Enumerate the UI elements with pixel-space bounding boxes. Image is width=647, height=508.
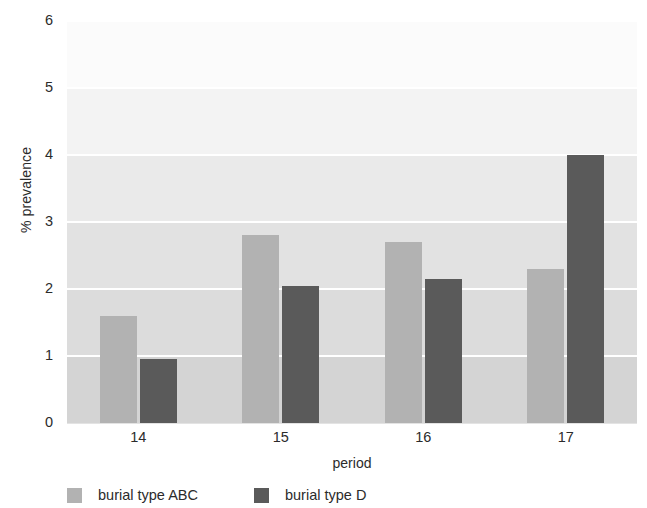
bar-chart-figure: % prevalence 0123456 14151617 period bur…	[0, 0, 647, 508]
legend-entry[interactable]: burial type ABC	[67, 487, 198, 503]
background-band-3-4	[67, 155, 637, 222]
legend-swatch-icon	[254, 488, 269, 503]
x-tick-label: 15	[241, 429, 321, 445]
y-tick-label: 2	[13, 281, 53, 296]
x-tick-label: 17	[526, 429, 606, 445]
bar	[242, 235, 279, 423]
x-axis-line	[67, 423, 637, 424]
y-tick-label: 5	[13, 80, 53, 95]
legend-swatch-icon	[67, 488, 82, 503]
bar	[567, 155, 604, 423]
gridline	[67, 87, 637, 89]
gridline	[67, 221, 637, 223]
legend-label: burial type ABC	[98, 487, 198, 503]
y-tick-label: 1	[13, 348, 53, 363]
bar	[140, 359, 177, 423]
plot-area	[67, 21, 637, 423]
y-axis-tick-labels: 0123456	[0, 0, 64, 440]
background-band-4-5	[67, 88, 637, 155]
x-tick-label: 16	[383, 429, 463, 445]
x-axis-title: period	[67, 455, 637, 471]
bar	[100, 316, 137, 423]
bar	[385, 242, 422, 423]
gridline	[67, 21, 637, 22]
x-tick-label: 14	[98, 429, 178, 445]
legend-entry[interactable]: burial type D	[254, 487, 366, 503]
chart-legend: burial type ABCburial type D	[67, 485, 366, 505]
legend-label: burial type D	[285, 487, 366, 503]
gridline	[67, 154, 637, 156]
y-tick-label: 4	[13, 147, 53, 162]
x-axis-tick-labels: 14151617	[67, 429, 637, 451]
y-tick-label: 3	[13, 214, 53, 229]
bar	[425, 279, 462, 423]
y-tick-label: 0	[13, 415, 53, 430]
background-band-5-6	[67, 21, 637, 88]
y-tick-label: 6	[13, 13, 53, 28]
bar	[527, 269, 564, 423]
bar	[282, 286, 319, 423]
